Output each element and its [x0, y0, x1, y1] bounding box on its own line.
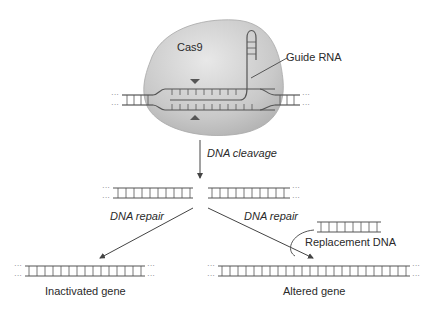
- label-dna-repair-right: DNA repair: [244, 210, 298, 222]
- svg-text:···: ···: [302, 100, 310, 109]
- svg-text:···: ···: [412, 271, 420, 280]
- label-inactivated-gene: Inactivated gene: [45, 285, 126, 297]
- label-dna-repair-left: DNA repair: [110, 210, 164, 222]
- cas9-protein: [144, 20, 284, 136]
- svg-text:···: ···: [14, 261, 22, 270]
- svg-text:···: ···: [207, 261, 215, 270]
- svg-text:···: ···: [302, 90, 310, 99]
- cleaved-dna: [113, 188, 290, 198]
- svg-text:···: ···: [14, 271, 22, 280]
- svg-text:···: ···: [102, 183, 110, 192]
- replacement-dna: [317, 222, 381, 232]
- svg-text:···: ···: [111, 90, 119, 99]
- label-dna-cleavage: DNA cleavage: [207, 147, 277, 159]
- label-guide-rna: Guide RNA: [286, 51, 342, 63]
- svg-text:···: ···: [292, 183, 300, 192]
- svg-text:···: ···: [111, 100, 119, 109]
- svg-text:···: ···: [147, 271, 155, 280]
- svg-text:···: ···: [412, 261, 420, 270]
- label-replacement-dna: Replacement DNA: [305, 236, 396, 248]
- svg-text:···: ···: [292, 193, 300, 202]
- label-altered-gene: Altered gene: [283, 285, 345, 297]
- svg-text:···: ···: [147, 261, 155, 270]
- svg-text:···: ···: [102, 193, 110, 202]
- svg-text:···: ···: [207, 271, 215, 280]
- label-cas9: Cas9: [177, 41, 203, 53]
